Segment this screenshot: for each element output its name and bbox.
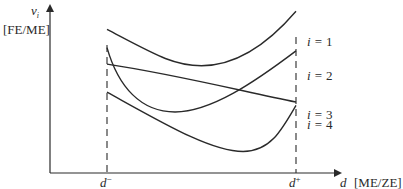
series-label-i2: i=2 — [307, 68, 332, 83]
series-label-i4: i=4 — [307, 117, 333, 132]
tick-label-d-minus: d− — [100, 174, 112, 189]
y-axis-label: vi — [31, 3, 39, 20]
series-line-i1 — [107, 11, 296, 65]
tick-label-d-plus: d+ — [289, 174, 301, 189]
cost-curves-diagram: vi [FE/ME] d− d+ d [ME/ZE] i=1 i=2 i=3 i… — [0, 0, 403, 189]
series-line-i4 — [107, 92, 296, 151]
x-axis-unit: [ME/ZE] — [354, 175, 402, 189]
x-axis-label: d — [340, 175, 347, 189]
y-axis-unit: [FE/ME] — [3, 22, 50, 37]
series-line-i2 — [107, 48, 296, 112]
series-label-i1: i=1 — [307, 34, 332, 49]
